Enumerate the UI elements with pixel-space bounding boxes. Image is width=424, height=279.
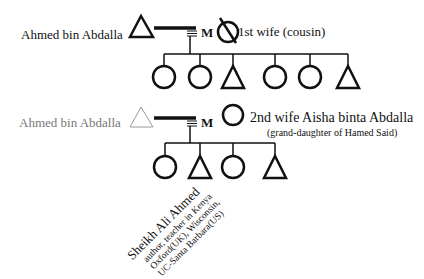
child-2-2-male [189,156,211,178]
child-1-1-female [153,66,175,88]
wife-1-deceased-icon [218,18,238,43]
marriage-marker-1: M [201,25,213,41]
child-1-6-male [337,66,359,88]
child-1-4-female [264,66,286,88]
child-2-1-female [154,156,176,178]
child-1-3-male [222,66,244,88]
wife-2-note: (grand-daughter of Hamed Said) [267,127,397,138]
marriage-marker-2: M [201,115,213,131]
wife-1-label: 1st wife (cousin) [238,24,325,40]
child-2-4-male [264,156,286,178]
husband-1-label: Ahmed bin Abdalla [21,27,123,43]
husband-2-triangle [130,107,153,127]
child-2-3-female [222,156,244,178]
husband-1-triangle [130,16,153,37]
kinship-diagram: Ahmed bin Abdalla M 1st wife (cousin) Ah… [0,0,424,279]
wife-2-label: 2nd wife Aisha binta Abdalla [250,110,413,126]
child-1-2-female [189,66,211,88]
husband-2-label: Ahmed bin Abdalla [19,115,121,131]
wife-2-circle [223,105,243,125]
child-1-5-female [299,66,321,88]
